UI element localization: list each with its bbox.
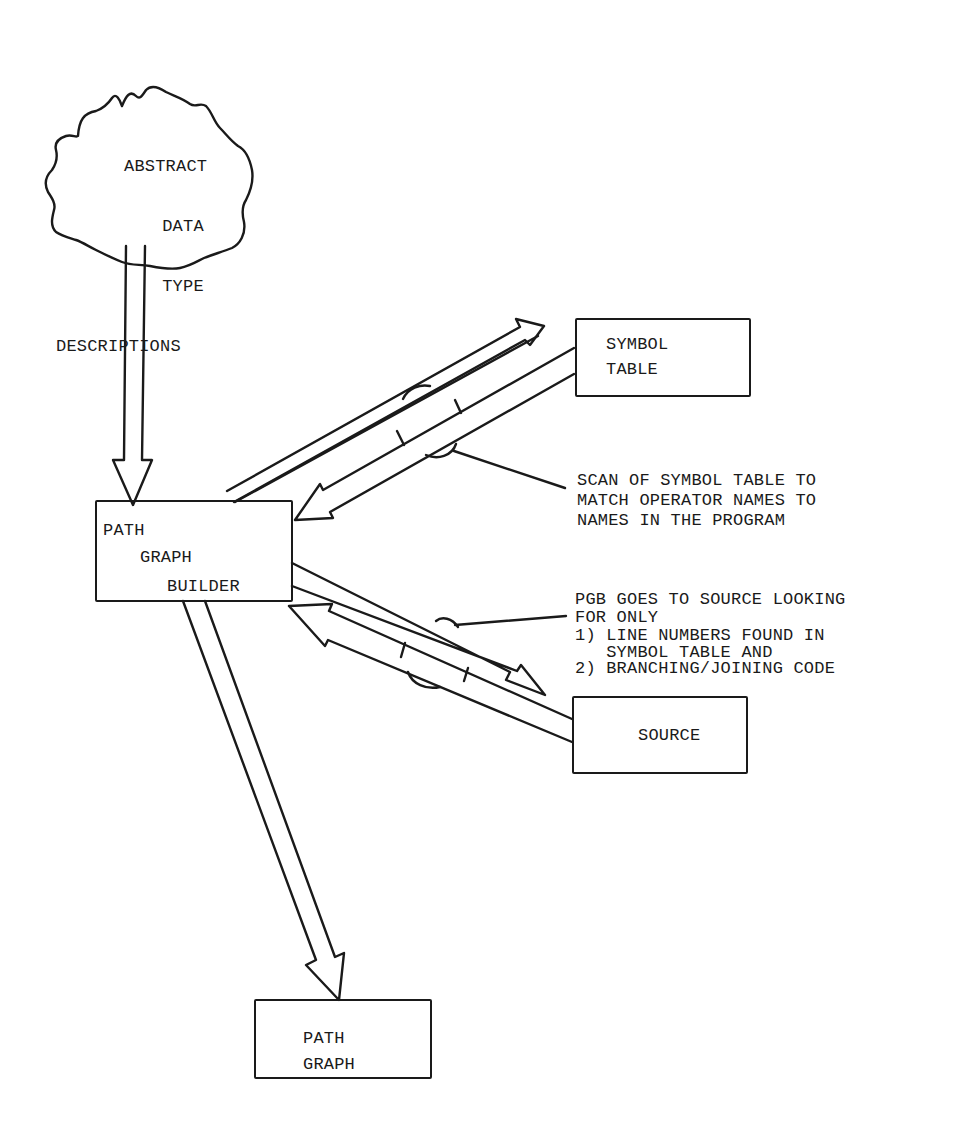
symtab-note-line-1: SCAN OF SYMBOL TABLE TO [577, 471, 816, 491]
adt-line-1: ABSTRACT [86, 157, 236, 177]
tick-symtab-1 [397, 431, 404, 445]
leader-source-annotation [455, 616, 566, 625]
annotation-symbol-table-scan: SCAN OF SYMBOL TABLE TO MATCH OPERATOR N… [577, 471, 816, 531]
pgb-label-1: PATH [103, 521, 145, 541]
arrow-pgb-to-symtab [227, 319, 544, 502]
tick-symtab-2 [455, 400, 461, 413]
source-note-line-5: 2) BRANCHING/JOINING CODE [575, 660, 845, 678]
symtab-label-2: TABLE [606, 360, 658, 380]
leader-symtab-annotation [454, 451, 565, 488]
symtab-note-line-2: MATCH OPERATOR NAMES TO [577, 491, 816, 511]
arrow-pgb-to-source [292, 563, 545, 695]
source-note-line-1: PGB GOES TO SOURCE LOOKING [575, 591, 845, 609]
adt-line-4: DESCRIPTIONS [56, 337, 236, 357]
source-note-line-2: FOR ONLY [575, 609, 845, 627]
symtab-label-1: SYMBOL [606, 335, 668, 355]
node-abstract-data-type-descriptions: ABSTRACT DATA TYPE DESCRIPTIONS [86, 117, 236, 377]
node-symbol-table [575, 318, 751, 397]
adt-line-2: DATA [86, 217, 236, 237]
pathgraph-label-2: GRAPH [303, 1055, 355, 1075]
tick-source-2 [464, 668, 468, 681]
source-label: SOURCE [638, 726, 700, 746]
pgb-label-2: GRAPH [140, 548, 192, 568]
pathgraph-label-1: PATH [303, 1029, 345, 1049]
arrow-pgb-to-pathgraph [183, 601, 344, 1000]
arrow-source-to-pgb [289, 604, 572, 742]
source-note-line-4: SYMBOL TABLE AND [575, 645, 845, 660]
pgb-label-3: BUILDER [167, 577, 240, 597]
annotation-source-scan: PGB GOES TO SOURCE LOOKING FOR ONLY 1) L… [575, 591, 845, 678]
adt-line-3: TYPE [86, 277, 236, 297]
symtab-note-line-3: NAMES IN THE PROGRAM [577, 511, 816, 531]
